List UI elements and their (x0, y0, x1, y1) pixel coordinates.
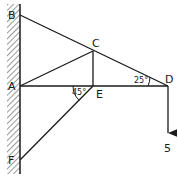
angle-arc-d (148, 77, 150, 86)
load-label: 5 (164, 143, 171, 154)
point-label-e: E (96, 89, 103, 100)
member-ac (20, 51, 93, 86)
angle-label-d: 25° (134, 77, 148, 85)
point-label-a: A (8, 81, 16, 92)
truss-diagram (0, 0, 178, 176)
member-fe (20, 86, 93, 160)
point-label-f: F (8, 155, 14, 166)
point-label-d: D (165, 74, 173, 85)
point-label-c: C (92, 38, 100, 49)
point-label-b: B (8, 10, 16, 21)
angle-label-e: 45° (72, 89, 86, 97)
